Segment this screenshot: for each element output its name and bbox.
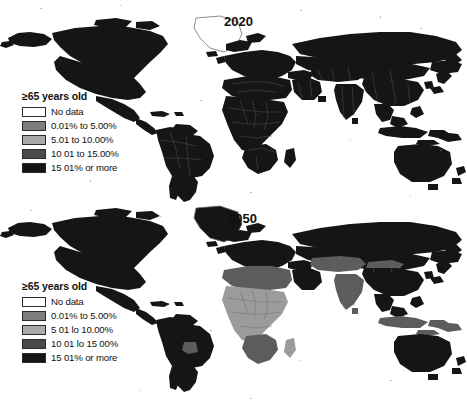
legend-swatch-class-3: [22, 339, 46, 349]
legend-swatch-class-2: [22, 325, 46, 335]
legend-item-class-3: 10 01 to 15.00%: [22, 147, 119, 160]
legend-label-no-data: No data: [51, 296, 84, 307]
legend-swatch-class-1: [22, 311, 46, 321]
legend-item-class-3: 10 01 lo 15 00%: [22, 337, 118, 350]
legend-title: ≥65 years old: [22, 90, 119, 102]
legend-title: ≥65 years old: [22, 280, 118, 292]
legend-label-class-4: 15 01% or more: [51, 352, 117, 363]
legend-swatch-class-1: [22, 121, 46, 131]
legend-2020: ≥65 years old No data 0.01% to 5.00% 5.0…: [22, 90, 119, 175]
legend-swatch-no-data: [22, 107, 46, 117]
legend-swatch-class-4: [22, 163, 46, 173]
legend-item-class-1: 0.01% to 5.00%: [22, 119, 119, 132]
map-panel-2020: .layer .c1 { fill: #7d7d7d; } .layer .c2…: [0, 0, 467, 202]
figure-two-world-maps: .layer .c1 { fill: #7d7d7d; } .layer .c2…: [0, 0, 467, 404]
year-label-2050: 2050: [228, 211, 257, 226]
legend-label-class-2: 5.01 to 10.00%: [51, 134, 113, 145]
legend-item-class-4: 15 01% or more: [22, 161, 119, 174]
legend-label-class-4: 15 01% or more: [51, 162, 117, 173]
map-panel-2050: .layer2 path { fill: #151515; } .layer2 …: [0, 202, 467, 404]
legend-swatch-class-4: [22, 353, 46, 363]
legend-2050: ≥65 years old No data 0.01% to 5.00% 5 0…: [22, 280, 118, 365]
legend-item-class-4: 15 01% or more: [22, 351, 118, 364]
legend-label-class-3: 10 01 lo 15 00%: [51, 338, 118, 349]
legend-item-class-2: 5.01 to 10.00%: [22, 133, 119, 146]
legend-item-no-data: No data: [22, 295, 118, 308]
legend-label-class-1: 0.01% to 5.00%: [51, 310, 117, 321]
legend-swatch-class-2: [22, 135, 46, 145]
legend-label-class-1: 0.01% to 5.00%: [51, 120, 117, 131]
legend-item-class-1: 0.01% to 5.00%: [22, 309, 118, 322]
legend-swatch-no-data: [22, 297, 46, 307]
year-label-2020: 2020: [224, 14, 253, 29]
legend-item-class-2: 5 01 lo 10.00%: [22, 323, 118, 336]
legend-label-no-data: No data: [51, 106, 84, 117]
legend-label-class-3: 10 01 to 15.00%: [51, 148, 119, 159]
legend-swatch-class-3: [22, 149, 46, 159]
legend-item-no-data: No data: [22, 105, 119, 118]
legend-label-class-2: 5 01 lo 10.00%: [51, 324, 113, 335]
